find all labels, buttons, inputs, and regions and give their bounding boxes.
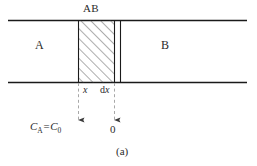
position-label-x: x <box>83 85 87 95</box>
thickness-x: x <box>105 84 109 95</box>
region-label-a: A <box>35 39 44 51</box>
concentration-c2: C <box>50 120 57 132</box>
region-label-b: B <box>161 39 169 51</box>
diffusion-couple-figure: AB A B x dx 0 CA=C0 (a) <box>0 0 257 166</box>
concentration-label: CA=C0 <box>30 121 61 135</box>
interface-layer-hatch <box>78 21 114 83</box>
origin-label-zero: 0 <box>110 124 116 135</box>
interface-label-ab: AB <box>83 3 99 14</box>
concentration-sub-zero: 0 <box>58 126 62 135</box>
figure-caption: (a) <box>116 146 128 157</box>
thickness-label-dx: dx <box>100 85 109 95</box>
diagram-canvas <box>0 0 257 166</box>
